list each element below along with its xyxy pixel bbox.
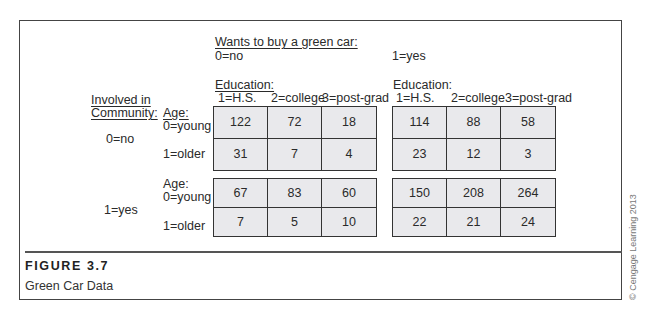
table-community-yes-buy-yes: 150 208 264 22 21 24 — [392, 178, 556, 237]
caption-divider — [25, 251, 622, 253]
age-label-bottom: Age: — [163, 177, 189, 191]
age-young-label-bottom: 0=young — [163, 190, 211, 204]
community-no-label: 0=no — [106, 132, 134, 146]
table-cell: 67 — [214, 179, 268, 208]
education-label-left: Education: — [215, 78, 274, 92]
table-cell: 10 — [322, 208, 376, 237]
table-cell: 3 — [501, 139, 555, 171]
education-hs-left: 1=H.S. — [218, 91, 257, 105]
education-college-right: 2=college — [451, 91, 505, 105]
figure-label: FIGURE 3.7 — [25, 259, 109, 273]
education-college-left: 2=college — [271, 91, 325, 105]
table-cell: 5 — [268, 208, 322, 237]
table-cell: 4 — [322, 139, 376, 171]
education-hs-right: 1=H.S. — [396, 91, 435, 105]
table-cell: 23 — [393, 139, 447, 171]
table-cell: 22 — [393, 208, 447, 237]
education-postgrad-right: 3=post-grad — [505, 91, 572, 105]
table-cell: 72 — [268, 107, 322, 139]
table-cell: 18 — [322, 107, 376, 139]
community-label-text: Community: — [91, 106, 158, 120]
table-cell: 58 — [501, 107, 555, 139]
table-cell: 7 — [268, 139, 322, 171]
community-label-line1: Involved in — [91, 93, 151, 107]
education-postgrad-left: 3=post-grad — [322, 91, 389, 105]
table-cell: 208 — [447, 179, 501, 208]
age-young-label-top: 0=young — [163, 119, 211, 133]
table-cell: 150 — [393, 179, 447, 208]
table-community-yes-buy-no: 67 83 60 7 5 10 — [213, 178, 377, 237]
table-cell: 83 — [268, 179, 322, 208]
table-cell: 60 — [322, 179, 376, 208]
age-older-label-bottom: 1=older — [163, 219, 205, 233]
age-label-top: Age: — [163, 106, 189, 120]
table-cell: 114 — [393, 107, 447, 139]
community-yes-label: 1=yes — [104, 203, 138, 217]
copyright-notice: © Cengage Learning 2013 — [628, 194, 638, 300]
table-community-no-buy-no: 122 72 18 31 7 4 — [213, 106, 377, 171]
table-cell: 7 — [214, 208, 268, 237]
outcome-label: Wants to buy a green car: — [215, 35, 358, 49]
table-cell: 21 — [447, 208, 501, 237]
table-cell: 24 — [501, 208, 555, 237]
education-label-right: Education: — [393, 78, 452, 92]
outcome-yes-label: 1=yes — [392, 49, 426, 63]
outcome-no-label: 0=no — [215, 49, 243, 63]
table-cell: 31 — [214, 139, 268, 171]
community-label-line2: Community: — [91, 106, 158, 120]
age-older-label-top: 1=older — [163, 147, 205, 161]
table-cell: 88 — [447, 107, 501, 139]
table-cell: 122 — [214, 107, 268, 139]
table-community-no-buy-yes: 114 88 58 23 12 3 — [392, 106, 556, 171]
table-cell: 12 — [447, 139, 501, 171]
figure-caption: Green Car Data — [25, 279, 113, 293]
table-cell: 264 — [501, 179, 555, 208]
